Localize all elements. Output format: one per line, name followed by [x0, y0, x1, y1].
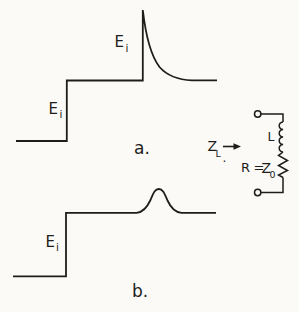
impedance-label-sub: L: [216, 148, 222, 159]
inductor-label: L: [268, 129, 275, 144]
terminal-bottom-icon: [255, 189, 261, 195]
waveform-a-step-label: E: [49, 100, 58, 118]
inductor-coil-icon: [279, 122, 283, 152]
waveform-b-step-label-sub: i: [56, 241, 59, 253]
terminal-top-icon: [255, 111, 261, 117]
resistance-label-sub: 0: [270, 169, 276, 180]
impedance-label-period: .: [223, 151, 227, 165]
resistor-zigzag-icon: [279, 152, 288, 178]
waveform-a-caption: a.: [134, 138, 150, 158]
waveform-b-caption: b.: [132, 281, 148, 301]
waveform-b-trace: [13, 189, 216, 276]
waveform-b-step-label: E: [46, 233, 55, 251]
waveform-a-spike-label: E: [115, 33, 124, 51]
waveform-circuit-figure: E i E i a. E i b. Z L . R = Z 0 L: [0, 0, 299, 312]
waveform-a-step-label-sub: i: [60, 108, 63, 120]
waveform-a-spike-label-sub: i: [126, 42, 129, 54]
wire-top: [261, 114, 283, 122]
impedance-arrowhead-icon: [234, 143, 242, 149]
waveform-a-trace: [16, 10, 217, 141]
